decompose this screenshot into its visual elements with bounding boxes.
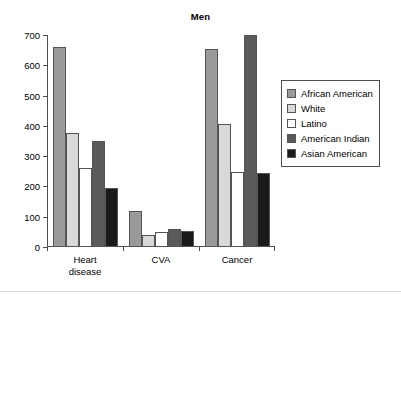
bar [231,172,244,247]
x-tick-mark [199,247,200,251]
bar [244,35,257,247]
legend-swatch-icon [287,89,296,98]
chart-figure: Men 0100200300400500600700 Heart disease… [0,0,401,399]
legend-item: White [287,101,373,116]
y-tick-label: 500 [24,90,40,101]
y-tick-label: 600 [24,60,40,71]
y-axis-men [47,35,48,247]
y-tick-mark [43,35,47,36]
legend-item: African American [287,86,373,101]
bar [155,232,168,247]
y-tick-label: 0 [35,242,40,253]
bar [142,235,155,247]
y-tick-mark [43,96,47,97]
legend-item-label: African American [301,88,373,99]
legend-swatch-icon [287,134,296,143]
legend-item: Asian American [287,146,373,161]
legend-swatch-icon [287,104,296,113]
chart-panel-women: Women 300350400 [0,292,401,399]
y-tick-mark [43,65,47,66]
legend-item: American Indian [287,131,373,146]
legend-item: Latino [287,116,373,131]
x-tick-mark [274,247,275,251]
x-axis-group-label: CVA [152,254,171,266]
bar [66,133,79,247]
y-tick-label: 200 [24,181,40,192]
legend-item-label: American Indian [301,133,370,144]
y-tick-mark [43,126,47,127]
bar [79,168,92,247]
plot-area-men: 0100200300400500600700 Heart diseaseCVAC… [47,35,275,247]
chart-title-men: Men [0,11,401,22]
x-axis-group-label: Cancer [222,254,253,266]
bar [181,231,194,247]
y-tick-label: 100 [24,211,40,222]
bar [205,49,218,247]
y-tick-mark [43,186,47,187]
legend-swatch-icon [287,119,296,128]
legend-item-label: Asian American [301,148,367,159]
bar [105,188,118,247]
bar [92,141,105,247]
legend-item-label: White [301,103,325,114]
bar [129,211,142,247]
y-tick-label: 700 [24,30,40,41]
y-tick-mark [43,217,47,218]
bar [257,173,270,247]
y-tick-label: 400 [24,120,40,131]
y-tick-label: 300 [24,151,40,162]
bar [53,47,66,247]
bar [218,124,231,247]
bar [168,229,181,247]
chart-legend: African AmericanWhiteLatinoAmerican Indi… [281,80,380,167]
legend-item-label: Latino [301,118,327,129]
x-tick-mark [47,247,48,251]
y-tick-mark [43,156,47,157]
x-axis-group-label: Heart disease [69,254,102,278]
legend-swatch-icon [287,149,296,158]
x-tick-mark [123,247,124,251]
